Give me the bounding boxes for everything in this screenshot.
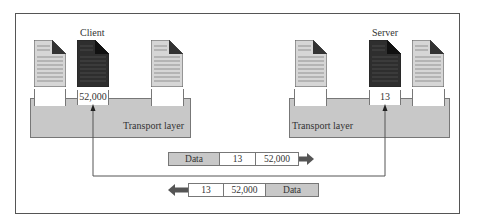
packet-field-dest-port: 52,000 (224, 184, 266, 196)
arrow-right-icon (299, 153, 314, 165)
packet-field-dest-port: 13 (220, 153, 256, 165)
packet-response: 13 52,000 Data (188, 183, 319, 197)
packet-field-data: Data (266, 184, 318, 196)
packet-field-src-port: 13 (189, 184, 224, 196)
packet-request: Data 13 52,000 (168, 152, 299, 166)
packet-field-data: Data (169, 153, 220, 165)
packet-field-src-port: 52,000 (256, 153, 298, 165)
arrow-left-icon (168, 184, 188, 196)
